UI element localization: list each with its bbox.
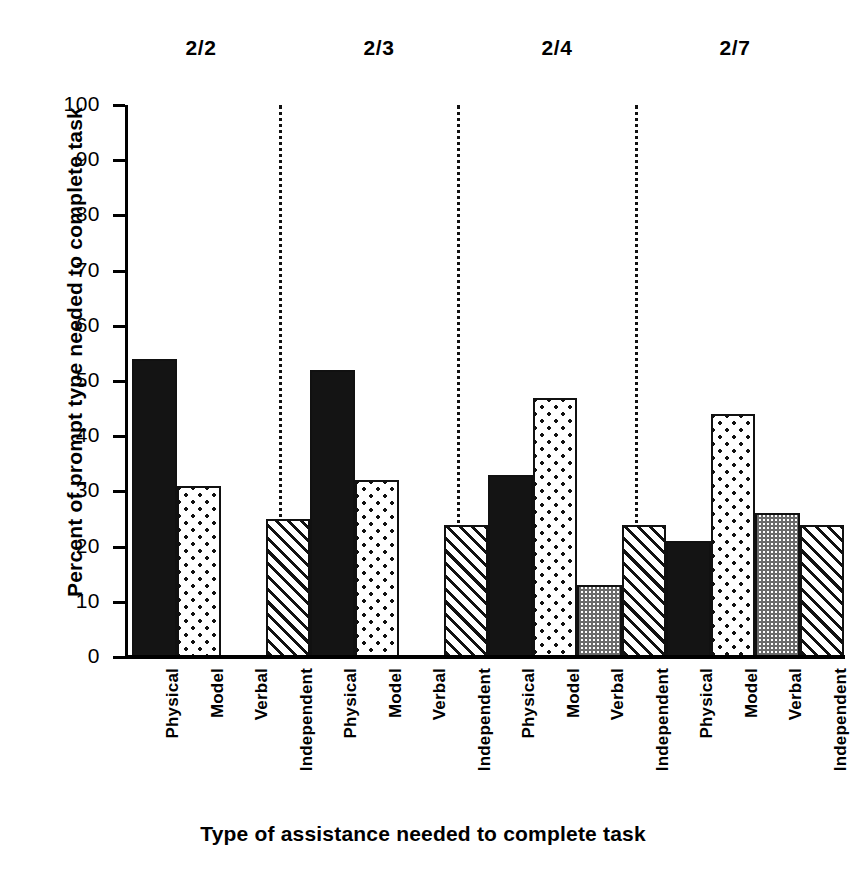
x-tick-label-model: Model — [208, 668, 228, 718]
y-tick-label: 0 — [48, 644, 100, 668]
y-tick-mark — [113, 656, 125, 659]
bar-2-2-model — [177, 486, 222, 657]
bar-2-2-physical — [132, 359, 177, 657]
x-tick-label-physical: Physical — [163, 668, 183, 739]
x-tick-label-verbal: Verbal — [786, 668, 806, 720]
x-tick-label-physical: Physical — [697, 668, 717, 739]
bar-2-7-physical — [666, 541, 711, 657]
x-tick-label-model: Model — [564, 668, 584, 718]
bar-2-3-model — [355, 480, 400, 657]
x-tick-label-independent: Independent — [653, 668, 673, 771]
y-tick-mark — [113, 546, 125, 549]
y-tick-mark — [113, 490, 125, 493]
x-axis-title: Type of assistance needed to complete ta… — [0, 822, 846, 846]
bar-2-3-physical — [310, 370, 355, 657]
bar-2-3-independent — [444, 525, 489, 657]
bar-2-4-physical — [488, 475, 533, 657]
y-tick-mark — [113, 159, 125, 162]
group-label-2-2: 2/2 — [186, 36, 217, 60]
x-tick-label-independent: Independent — [475, 668, 495, 771]
y-tick-mark — [113, 214, 125, 217]
x-tick-label-independent: Independent — [297, 668, 317, 771]
x-tick-label-verbal: Verbal — [430, 668, 450, 720]
bar-2-4-model — [533, 398, 578, 657]
group-label-2-7: 2/7 — [720, 36, 751, 60]
bar-2-4-independent — [622, 525, 667, 657]
bar-2-7-independent — [800, 525, 845, 657]
x-tick-label-physical: Physical — [341, 668, 361, 739]
x-tick-label-model: Model — [742, 668, 762, 718]
y-tick-mark — [113, 601, 125, 604]
group-label-2-3: 2/3 — [364, 36, 395, 60]
bar-2-7-verbal — [755, 513, 800, 657]
x-axis-line — [125, 655, 845, 659]
bar-2-4-verbal — [577, 585, 622, 657]
y-tick-mark — [113, 104, 125, 107]
y-tick-mark — [113, 435, 125, 438]
bar-2-7-model — [711, 414, 756, 657]
bar-2-2-independent — [266, 519, 311, 657]
x-tick-label-independent: Independent — [831, 668, 851, 771]
y-tick-mark — [113, 380, 125, 383]
x-tick-label-verbal: Verbal — [608, 668, 628, 720]
y-axis-line — [125, 105, 128, 657]
group-label-2-4: 2/4 — [542, 36, 573, 60]
y-axis-title: Percent of prompt type needed to complet… — [63, 72, 87, 632]
x-tick-label-verbal: Verbal — [252, 668, 272, 720]
y-tick-mark — [113, 325, 125, 328]
y-tick-mark — [113, 270, 125, 273]
x-tick-label-physical: Physical — [519, 668, 539, 739]
x-tick-label-model: Model — [386, 668, 406, 718]
